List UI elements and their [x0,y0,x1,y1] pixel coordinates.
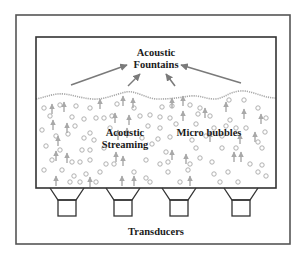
bubble [138,114,142,118]
bubble [144,176,148,180]
bubble [148,180,152,184]
transducer-horn [224,188,258,200]
bubble [68,180,72,184]
bubble [48,114,52,118]
bubble [208,114,212,118]
transducer-horn [106,188,140,200]
bubble [210,160,214,164]
bubble [80,148,84,152]
bubble [94,180,98,184]
bubble [132,170,136,174]
bubble [198,106,202,110]
transducer [162,188,196,216]
bubble [248,162,252,166]
bubble [260,146,264,150]
bubble [166,170,170,174]
streaming-label-line2: Streaming [94,139,156,151]
bubble [188,103,192,107]
bubble [104,162,108,166]
transducer-body [170,200,188,216]
bubble [218,180,222,184]
bubble [84,172,88,176]
bubble [228,118,232,122]
bubble [70,115,74,119]
bubble [82,136,86,140]
transducer-body [232,200,250,216]
micro-bubbles-label: Micro bubbles [172,127,246,139]
bubble [178,180,182,184]
bubble [42,168,46,172]
bubble [264,116,268,120]
bubble [88,158,92,162]
bubble [198,156,202,160]
bubble [72,174,76,178]
transducer [224,188,258,216]
bubble [50,158,54,162]
fountains-label-line1: Acoustic [120,47,192,59]
bubble [94,116,98,120]
bubble [158,162,162,166]
fountains-label-line2: Fountains [120,59,192,71]
bubble [164,150,168,154]
bubble [188,162,192,166]
bubble [158,126,162,130]
bubble [236,180,240,184]
transducer [106,188,140,216]
bubble [102,116,106,120]
bubble [156,137,160,141]
transducer-body [114,200,132,216]
bubble [256,106,260,110]
bubble [58,103,62,107]
acoustic-fountain-diagram: Acoustic Fountains Acoustic Streaming Mi… [0,0,304,256]
bubble [40,128,44,132]
fountains-label: Acoustic Fountains [120,47,192,71]
bubble [196,112,200,116]
bubble [166,160,170,164]
bubble [234,146,238,150]
liquid-surface-wave [36,91,276,99]
bubble [264,174,268,178]
bubble [88,106,92,110]
transducers-group [50,188,258,216]
streaming-label-line1: Acoustic [94,127,156,139]
bubble [194,122,198,126]
bubble [98,170,102,174]
bubble [220,146,224,150]
bubble [242,98,246,102]
transducers-label: Transducers [120,226,192,238]
bubble [70,160,74,164]
bubble [148,113,152,117]
transducer-horn [50,188,84,200]
bubble [44,144,48,148]
bubble [260,163,264,167]
bubble [82,117,86,121]
bubble [212,172,216,176]
bubble [194,146,198,150]
bubble [74,104,78,108]
bubble [160,105,164,109]
fountain-arrow [128,74,140,86]
bubble [227,98,231,102]
bubble [73,124,77,128]
transducer-horn [162,188,196,200]
bubble [115,102,119,106]
bubble [58,148,62,152]
fountain-arrow [71,65,127,85]
bubble [78,180,82,184]
bubble [88,148,92,152]
bubble [110,114,114,118]
bubble [60,168,64,172]
transducer-body [58,200,76,216]
bubble [144,158,148,162]
streaming-label: Acoustic Streaming [94,127,156,151]
bubble [263,130,267,134]
bubble [256,170,260,174]
bubble [42,106,46,110]
bubble [226,170,230,174]
bubble [186,168,190,172]
bubble [174,122,178,126]
bubble [88,131,92,135]
bubble [256,140,260,144]
bubble [158,115,162,119]
fountain-arrow [166,74,175,86]
